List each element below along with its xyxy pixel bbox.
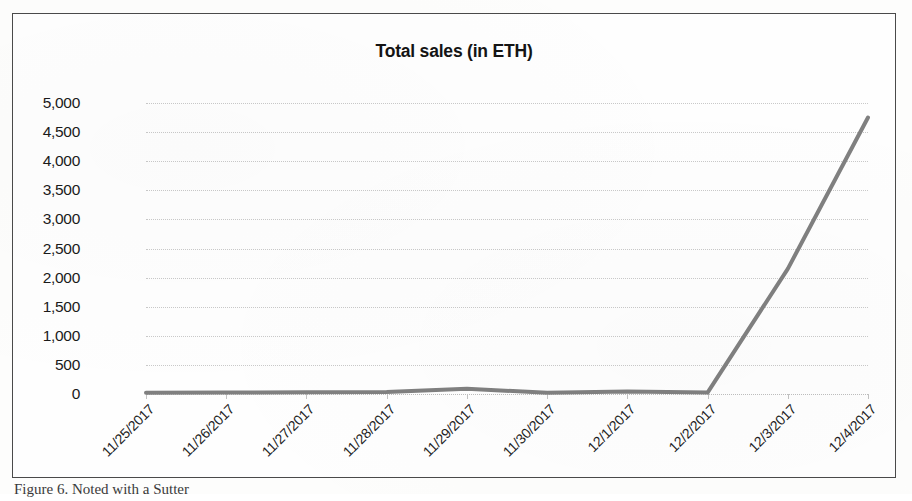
y-axis-tick-label: 3,000	[0, 210, 80, 228]
x-axis-tick-label: 11/28/2017	[266, 401, 398, 501]
x-axis-tick-mark	[708, 394, 709, 399]
y-axis-tick-label: 1,000	[0, 327, 80, 345]
figure-caption: Figure 6. Noted with a Sutter	[14, 481, 189, 498]
x-axis-tick-mark	[868, 394, 869, 399]
x-axis-tick-mark	[306, 394, 307, 399]
x-axis-tick-label: 12/4/2017	[748, 401, 880, 501]
x-axis-tick-mark	[788, 394, 789, 399]
y-axis-tick-label: 2,500	[0, 240, 80, 258]
x-axis-tick-mark	[627, 394, 628, 399]
y-axis-tick-label: 4,500	[0, 123, 80, 141]
x-axis-tick-mark	[226, 394, 227, 399]
y-axis-tick-label: 4,000	[0, 152, 80, 170]
x-axis-tick-label: 12/2/2017	[587, 401, 719, 501]
plot-area: 5,0004,5004,0003,5003,0002,5002,0001,500…	[146, 103, 868, 394]
series-line-total-sales	[146, 103, 868, 394]
y-axis-tick-label: 2,000	[0, 269, 80, 287]
y-axis-tick-label: 5,000	[0, 94, 80, 112]
y-axis-tick-label: 3,500	[0, 181, 80, 199]
y-axis-tick-label: 500	[0, 356, 80, 374]
x-axis-tick-mark	[387, 394, 388, 399]
x-axis-tick-mark	[467, 394, 468, 399]
x-axis-tick-label: 12/1/2017	[507, 401, 639, 501]
chart-title: Total sales (in ETH)	[13, 41, 895, 62]
y-axis-tick-label: 1,500	[0, 298, 80, 316]
x-axis-tick-label: 12/3/2017	[668, 401, 800, 501]
y-axis-tick-label: 0	[0, 385, 80, 403]
x-axis-tick-label: 11/30/2017	[427, 401, 559, 501]
figure-frame: Total sales (in ETH) 5,0004,5004,0003,50…	[12, 13, 896, 478]
x-axis-tick-label: 11/29/2017	[347, 401, 479, 501]
x-axis-tick-label: 11/27/2017	[186, 401, 318, 501]
